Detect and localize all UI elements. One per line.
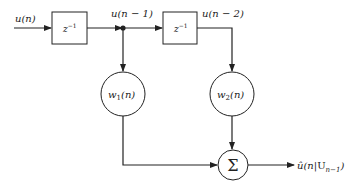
output-label: û(n|Un−1)	[297, 160, 344, 174]
tap2-label: u(n − 2)	[202, 8, 244, 19]
linear-predictor-diagram: u(n) z−1 u(n − 1) z−1 u(n − 2) w1(n) w2(…	[0, 0, 362, 190]
delay-block-2: z−1	[163, 12, 197, 44]
summation-node: Σ	[218, 150, 248, 180]
weight-node-1: w1(n)	[101, 72, 145, 116]
tap1-label: u(n − 1)	[111, 8, 153, 19]
arrow-weight1-to-sum	[123, 116, 217, 165]
svg-text:Σ: Σ	[227, 156, 238, 175]
delay-block-1: z−1	[52, 12, 87, 44]
weight-node-2: w2(n)	[210, 72, 254, 116]
arrow-to-weight2	[197, 28, 232, 71]
input-label: u(n)	[15, 13, 36, 24]
